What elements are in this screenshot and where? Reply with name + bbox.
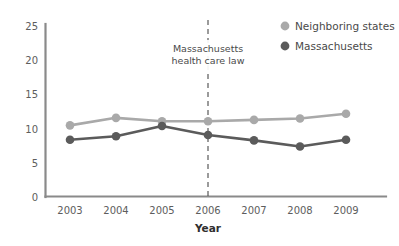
x-tick-label: 2003 — [57, 205, 82, 216]
y-tick-labels: 25 20 15 10 5 0 — [25, 21, 38, 203]
legend-label-neighboring-states: Neighboring states — [295, 20, 395, 32]
data-point — [342, 109, 351, 118]
y-tick-label: 0 — [32, 192, 38, 203]
x-tick-labels: 2003 2004 2005 2006 2007 2008 2009 — [57, 205, 358, 216]
chart-canvas: 25 20 15 10 5 0 2003 2004 2005 2006 2007… — [0, 0, 399, 246]
data-point — [296, 114, 305, 123]
y-tick-label: 5 — [32, 158, 38, 169]
data-point — [250, 116, 259, 125]
data-point — [112, 132, 121, 141]
y-tick-label: 10 — [25, 124, 38, 135]
data-point — [296, 142, 305, 151]
legend: Neighboring states Massachusetts — [281, 20, 395, 52]
annotation-line-2: health care law — [172, 55, 245, 66]
y-tick-label: 25 — [25, 21, 38, 32]
x-tick-label: 2005 — [149, 205, 174, 216]
data-point — [204, 131, 213, 140]
data-point — [250, 136, 259, 145]
x-axis-title: Year — [194, 222, 222, 234]
data-point — [342, 135, 351, 144]
annotation-line-1: Massachusetts — [173, 43, 243, 54]
data-point — [112, 114, 121, 123]
x-tick-label: 2006 — [195, 205, 220, 216]
data-point — [158, 122, 167, 131]
data-point — [204, 117, 213, 126]
x-tick-label: 2008 — [287, 205, 312, 216]
data-point — [66, 135, 75, 144]
x-tick-label: 2009 — [333, 205, 358, 216]
legend-swatch-massachusetts — [281, 42, 290, 51]
line-chart: 25 20 15 10 5 0 2003 2004 2005 2006 2007… — [0, 0, 399, 246]
data-point — [66, 121, 75, 130]
y-tick-label: 20 — [25, 55, 38, 66]
x-tick-label: 2007 — [241, 205, 266, 216]
legend-label-massachusetts: Massachusetts — [295, 40, 373, 52]
x-tick-label: 2004 — [103, 205, 128, 216]
y-tick-label: 15 — [25, 89, 38, 100]
legend-swatch-neighboring-states — [281, 22, 290, 31]
